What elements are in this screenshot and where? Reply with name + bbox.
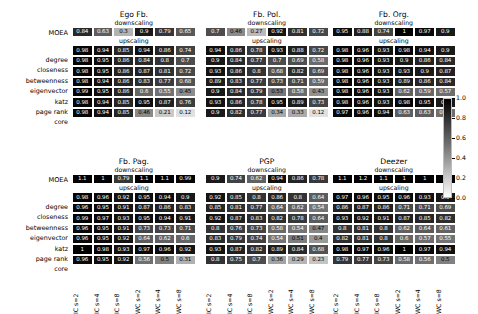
heatmap-cell: 0.86: [154, 45, 175, 55]
heatmap-panel-fb-pag: Fb. Pag.downscaling1.110.791.11.10.99ups…: [72, 157, 196, 265]
heatmap-panel-ego-fb: Ego Fb.downscaling0.840.630.30.90.790.65…: [72, 10, 196, 118]
heatmap-cell: 0.76: [175, 97, 196, 107]
heatmap-cell: 0.29: [287, 255, 308, 265]
heatmap-cell: 0.86: [226, 66, 247, 76]
heatmap-cell: 0.71: [414, 203, 435, 213]
heatmap-cell: 0.96: [72, 203, 93, 213]
heatmap-cell: 0.4: [308, 234, 329, 244]
heatmap-cell: 0.95: [93, 87, 114, 97]
heatmap-cell: 0.89: [205, 77, 226, 87]
heatmap-grid: 0.920.850.80.860.80.640.850.810.770.640.…: [205, 192, 329, 265]
heatmap-cell: 0.83: [134, 77, 155, 87]
heatmap-cell: 0.93: [205, 97, 226, 107]
moea-row-label: MOEA: [14, 28, 68, 38]
heatmap-cell: 0.54: [267, 234, 288, 244]
row-label-group: degreeclosenessbetweennesseigenvectorkat…: [4, 55, 68, 128]
heatmap-cell: 0.82: [267, 213, 288, 223]
heatmap-cell: 0.9: [205, 56, 226, 66]
upscaling-label: upscaling: [205, 184, 329, 192]
heatmap-cell: 0.96: [353, 45, 374, 55]
heatmap-cell: 0.95: [373, 192, 394, 202]
heatmap-cell: 0.97: [353, 244, 374, 254]
heatmap-cell: 0.94: [93, 77, 114, 87]
heatmap-cell: 0.69: [308, 66, 329, 76]
panel-title: Fb. Pag.: [72, 157, 196, 166]
heatmap-cell: 0.81: [154, 66, 175, 76]
heatmap-cell: 0.3: [113, 27, 134, 37]
panel-title: PGP: [205, 157, 329, 166]
heatmap-cell: 0.97: [332, 192, 353, 202]
heatmap-cell: 0.78: [287, 213, 308, 223]
heatmap-panel-pgp: PGPdownscaling0.90.740.620.940.860.78ups…: [205, 157, 329, 265]
heatmap-cell: 0.55: [154, 87, 175, 97]
heatmap-cell: 0.96: [353, 77, 374, 87]
heatmap-cell: 0.85: [113, 45, 134, 55]
heatmap-cell: 0.95: [93, 224, 114, 234]
heatmap-cell: 0.94: [435, 244, 456, 254]
heatmap-cell: 0.64: [134, 234, 155, 244]
heatmap-cell: 0.96: [353, 87, 374, 97]
heatmap-cell: 0.95: [93, 234, 114, 244]
heatmap-cell: 0.9: [435, 45, 456, 55]
heatmap-cell: 0.5: [435, 255, 456, 265]
row-label: betweenness: [4, 223, 68, 233]
heatmap-cell: 0.78: [246, 45, 267, 55]
moea-row: 1.110.791.11.10.99: [72, 174, 196, 184]
heatmap-panel-fb-org: Fb. Org.downscaling0.950.880.7410.970.9u…: [332, 10, 456, 118]
heatmap-cell: 0.98: [93, 244, 114, 254]
downscaling-label: downscaling: [72, 166, 196, 174]
heatmap-cell: 1: [93, 174, 114, 184]
heatmap-cell: 0.87: [154, 97, 175, 107]
x-tick-label: WC s=8: [175, 274, 196, 314]
heatmap-cell: 1.1: [72, 174, 93, 184]
heatmap-cell: 0.9: [394, 56, 415, 66]
panel-title: Ego Fb.: [72, 10, 196, 19]
x-axis-labels: IC s=2IC s=4IC s=8WC s=2WC s=4WC s=8: [332, 274, 456, 314]
x-tick-label: IC s=2: [205, 274, 226, 314]
heatmap-cell: 0.62: [154, 234, 175, 244]
heatmap-cell: 0.97: [134, 244, 155, 254]
heatmap-cell: 0.56: [134, 255, 155, 265]
heatmap-cell: 0.84: [287, 244, 308, 254]
heatmap-cell: 0.53: [267, 87, 288, 97]
heatmap-cell: 0.96: [353, 97, 374, 107]
colorbar-tick-label: 0.6: [456, 135, 466, 141]
heatmap-cell: 0.93: [414, 192, 435, 202]
x-tick-label: IC s=2: [72, 274, 93, 314]
x-tick-label: WC s=2: [267, 274, 288, 314]
heatmap-cell: 0.34: [267, 108, 288, 118]
heatmap-cell: 0.77: [246, 108, 267, 118]
heatmap-cell: 0.62: [246, 174, 267, 184]
heatmap-cell: 0.98: [72, 56, 93, 66]
heatmap-grid: 0.980.960.920.950.940.90.960.950.910.870…: [72, 192, 196, 265]
heatmap-cell: 0.84: [226, 87, 247, 97]
heatmap-grid: 0.980.940.850.940.860.740.980.950.860.84…: [72, 45, 196, 118]
heatmap-cell: 0.85: [113, 97, 134, 107]
heatmap-cell: 0.9: [134, 27, 155, 37]
heatmap-cell: 0.87: [134, 66, 155, 76]
heatmap-cell: 0.98: [332, 77, 353, 87]
x-tick-label: WC s=4: [414, 274, 435, 314]
heatmap-cell: 0.84: [134, 56, 155, 66]
heatmap-cell: 1.2: [353, 174, 374, 184]
heatmap-cell: 0.92: [205, 192, 226, 202]
heatmap-cell: 0.93: [373, 45, 394, 55]
heatmap-cell: 0.93: [267, 45, 288, 55]
x-axis-labels: IC s=2IC s=4IC s=8WC s=2WC s=4WC s=8: [205, 274, 329, 314]
downscaling-label: downscaling: [332, 166, 456, 174]
heatmap-cell: 0.71: [287, 77, 308, 87]
heatmap-cell: 0.62: [394, 87, 415, 97]
heatmap-cell: 0.94: [154, 192, 175, 202]
heatmap-cell: 0.8: [332, 224, 353, 234]
heatmap-cell: 0.31: [175, 255, 196, 265]
x-tick-label: WC s=4: [154, 274, 175, 314]
heatmap-cell: 0.64: [308, 192, 329, 202]
heatmap-cell: 0.9: [205, 174, 226, 184]
heatmap-cell: 0.96: [72, 234, 93, 244]
heatmap-cell: 0.82: [246, 244, 267, 254]
heatmap-cell: 0.47: [308, 224, 329, 234]
heatmap-cell: 0.95: [93, 255, 114, 265]
heatmap-cell: 0.86: [226, 97, 247, 107]
row-label: core: [4, 117, 68, 127]
